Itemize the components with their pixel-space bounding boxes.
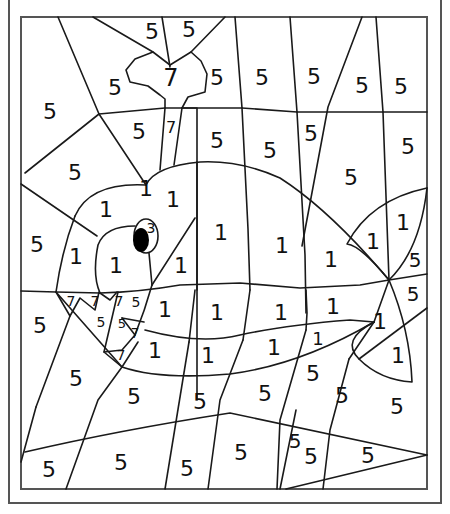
coloring-page: 5575555555575555551111511311111557775111… <box>0 0 450 514</box>
region-number: 7 <box>91 293 100 309</box>
region-number: 5 <box>132 119 146 144</box>
region-number: 5 <box>255 65 269 90</box>
spout-stem <box>160 108 165 170</box>
region-number: 1 <box>166 187 180 212</box>
region-number: 7 <box>115 293 124 309</box>
region-number: 5 <box>145 19 159 44</box>
region-number: 7 <box>131 325 140 341</box>
region-number: 5 <box>42 457 56 482</box>
region-number: 5 <box>335 383 349 408</box>
region-number: 1 <box>396 210 410 235</box>
region-number: 5 <box>182 17 196 42</box>
region-number: 5 <box>401 134 415 159</box>
region-number: 5 <box>127 384 141 409</box>
region-number: 5 <box>304 444 318 469</box>
region-number: 5 <box>108 75 122 100</box>
line <box>383 112 389 280</box>
region-number: 1 <box>210 300 224 325</box>
region-number: 1 <box>174 253 188 278</box>
region-number: 5 <box>304 121 318 146</box>
line <box>306 290 307 330</box>
region-number: 1 <box>326 294 340 319</box>
line <box>149 253 152 285</box>
region-number: 5 <box>210 65 224 90</box>
line <box>277 330 306 489</box>
region-number: 5 <box>210 128 224 153</box>
region-number: 5 <box>118 316 126 331</box>
line <box>189 290 195 342</box>
line <box>25 114 99 173</box>
region-number: 5 <box>355 73 369 98</box>
whale-mouth-line <box>21 280 389 293</box>
line <box>21 184 97 236</box>
region-number: 5 <box>344 165 358 190</box>
region-number: 5 <box>258 381 272 406</box>
region-number: 5 <box>33 313 47 338</box>
region-number: 5 <box>97 314 106 330</box>
region-number: 3 <box>147 220 156 236</box>
region-number: 1 <box>148 338 162 363</box>
region-number: 5 <box>407 282 420 306</box>
region-number: 7 <box>117 347 126 363</box>
region-number: 1 <box>158 297 172 322</box>
region-number: 1 <box>312 328 323 349</box>
region-number: 1 <box>69 244 83 269</box>
region-number: 5 <box>132 294 141 310</box>
region-number: 1 <box>214 220 228 245</box>
region-number: 5 <box>307 64 321 89</box>
region-number: 1 <box>391 343 405 368</box>
line <box>235 17 242 108</box>
region-number: 5 <box>234 440 248 465</box>
region-number: 1 <box>274 300 288 325</box>
region-number: 1 <box>373 309 387 334</box>
whale-belly-line <box>145 320 374 339</box>
region-number: 1 <box>201 343 215 368</box>
region-number: 1 <box>324 247 338 272</box>
region-number: 1 <box>99 197 113 222</box>
line <box>21 407 36 462</box>
line <box>323 359 349 489</box>
region-number: 5 <box>361 443 375 468</box>
region-number: 7 <box>166 118 176 137</box>
line <box>242 108 250 290</box>
region-number: 5 <box>30 232 44 257</box>
line <box>99 108 427 114</box>
region-number: 5 <box>390 394 404 419</box>
region-number: 5 <box>68 160 82 185</box>
region-number: 5 <box>69 366 83 391</box>
region-number: 5 <box>289 429 302 453</box>
region-number: 5 <box>43 99 57 124</box>
region-number: 1 <box>275 233 289 258</box>
region-number: 5 <box>180 456 194 481</box>
region-number: 5 <box>306 361 320 386</box>
region-number: 5 <box>263 138 277 163</box>
region-number: 1 <box>267 335 281 360</box>
region-number: 7 <box>163 64 178 92</box>
region-number: 5 <box>394 74 408 99</box>
line <box>376 17 383 112</box>
region-number: 1 <box>109 253 123 278</box>
region-number: 1 <box>139 176 153 201</box>
region-number: 1 <box>366 229 380 254</box>
line <box>290 17 297 112</box>
region-number: 5 <box>409 248 422 272</box>
region-number: 5 <box>193 389 207 414</box>
coloring-sheet: 5575555555575555551111511311111557775111… <box>0 0 450 514</box>
region-number: 7 <box>67 293 76 309</box>
region-number: 5 <box>114 450 128 475</box>
